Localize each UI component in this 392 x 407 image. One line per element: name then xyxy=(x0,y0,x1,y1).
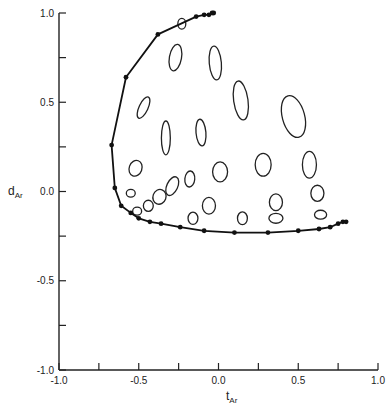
error-ellipse xyxy=(135,95,153,120)
x-tick-label: -0.5 xyxy=(130,375,148,386)
x-tick-label: 0.5 xyxy=(291,375,305,386)
curve-marker xyxy=(266,230,271,235)
error-ellipse xyxy=(269,213,283,223)
error-ellipse xyxy=(143,200,153,211)
y-tick-label: 0.5 xyxy=(40,97,54,108)
error-ellipse xyxy=(195,119,207,147)
curve-marker xyxy=(124,75,129,80)
error-ellipse xyxy=(237,212,247,225)
x-tick-label: 1.0 xyxy=(371,375,385,386)
error-ellipse xyxy=(184,171,195,188)
error-ellipse xyxy=(231,80,251,121)
curve-marker xyxy=(194,14,199,19)
error-ellipse xyxy=(255,153,271,176)
y-axis-label: dAr xyxy=(8,184,23,200)
curve-marker xyxy=(207,12,212,17)
curve-marker xyxy=(178,225,183,230)
curve-marker xyxy=(202,12,207,17)
error-ellipse xyxy=(188,212,198,224)
x-tick-label: 0.0 xyxy=(212,375,226,386)
curve-marker xyxy=(232,230,237,235)
error-ellipse xyxy=(167,43,184,71)
y-tick-label: 0.0 xyxy=(40,186,54,197)
chart-canvas: 1.00.50.0-0.5-1.0-1.0-0.50.00.51.0 dAr t… xyxy=(0,0,392,407)
curve-marker xyxy=(128,211,133,216)
y-tick-label: -0.5 xyxy=(37,275,55,286)
error-ellipse xyxy=(127,159,144,178)
error-ellipse xyxy=(311,185,324,201)
x-axis-label: tAr xyxy=(226,389,238,405)
error-ellipse xyxy=(202,197,215,214)
error-ellipse xyxy=(133,207,142,215)
curve-marker xyxy=(336,221,341,226)
error-ellipse xyxy=(213,162,228,182)
y-tick-label: 1.0 xyxy=(40,8,54,19)
curve-marker xyxy=(344,219,349,224)
curve-marker xyxy=(148,219,153,224)
error-ellipse xyxy=(208,46,223,81)
y-tick-label: -1.0 xyxy=(37,365,55,376)
error-ellipse xyxy=(269,194,282,211)
ellipse-layer xyxy=(126,18,326,224)
curve-marker xyxy=(296,228,301,233)
error-ellipse xyxy=(126,189,135,197)
curve-line xyxy=(112,13,347,233)
curve-marker xyxy=(109,143,114,148)
axes: 1.00.50.0-0.5-1.0-1.0-0.50.00.51.0 xyxy=(37,8,386,387)
curve-marker xyxy=(112,186,117,191)
error-ellipse xyxy=(302,151,316,178)
curve-marker xyxy=(328,225,333,230)
curve-marker xyxy=(119,203,124,208)
curve-marker xyxy=(202,228,207,233)
error-ellipse xyxy=(161,121,170,155)
error-ellipse xyxy=(315,210,327,219)
curve-marker xyxy=(317,227,322,232)
curve-marker xyxy=(159,221,164,226)
x-tick-label: -1.0 xyxy=(50,375,68,386)
error-ellipse xyxy=(277,93,310,140)
curve-marker xyxy=(155,32,160,37)
curve-marker xyxy=(136,216,141,221)
